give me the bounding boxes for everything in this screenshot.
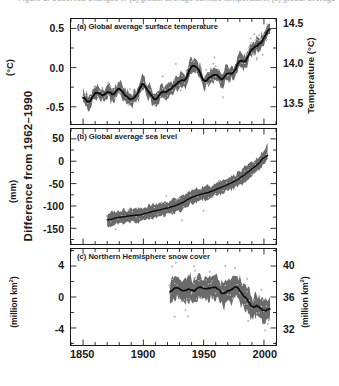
panel-c-title: (c) Northern Hemisphere snow cover xyxy=(77,252,210,261)
tick-label: 4 xyxy=(58,259,64,271)
tick-label: 14.0 xyxy=(283,57,303,69)
figure-caption-top: Figure 1. Observed changes in (a) global… xyxy=(18,0,338,4)
x-tick-label: 1950 xyxy=(192,348,216,360)
x-tick-label: 1900 xyxy=(131,348,155,360)
x-axis-tick-labels: 1850190019502000 xyxy=(70,348,277,364)
tick-label: 50 xyxy=(52,132,64,144)
tick-label: 32 xyxy=(283,323,295,335)
panel-a-left-tick-labels: 0.50.0-0.5 xyxy=(22,18,64,125)
panel-b-left-tick-labels: 500-50-100-150 xyxy=(22,128,64,245)
tick-label: 40 xyxy=(283,259,295,271)
tick-label: 0 xyxy=(58,291,64,303)
panel-c-snow-cover: (c) Northern Hemisphere snow cover xyxy=(70,248,277,346)
tick-label: 0 xyxy=(58,155,64,167)
climate-indicators-figure: Figure 1. Observed changes in (a) global… xyxy=(0,0,339,386)
x-tick-label: 2000 xyxy=(253,348,277,360)
tick-label: -50 xyxy=(49,178,64,190)
panel-b-sea-level: (b) Global average sea level xyxy=(70,128,277,245)
panel-a-title: (a) Global average surface temperature xyxy=(77,22,218,31)
tick-label: 0.0 xyxy=(49,62,64,74)
tick-label: 14.5 xyxy=(283,17,303,29)
tick-label: 36 xyxy=(283,291,295,303)
tick-label: -0.5 xyxy=(46,101,64,113)
tick-label: 0.5 xyxy=(49,22,64,34)
panel-c-right-axis-label: (million km2) xyxy=(300,276,310,328)
panel-b-title: (b) Global average sea level xyxy=(77,132,177,141)
tick-label: -150 xyxy=(43,223,64,235)
tick-label: 13.5 xyxy=(283,97,303,109)
panel-a-right-tick-labels: 14.514.013.5 xyxy=(283,18,323,125)
tick-label: -100 xyxy=(43,200,64,212)
panel-a-right-axis-label: Temperature (°C) xyxy=(305,37,316,113)
panel-c-left-tick-labels: 40-4 xyxy=(22,248,64,346)
panel-b-unit-label: (mm) xyxy=(7,180,18,203)
panel-a-unit-label: (°C) xyxy=(4,59,15,76)
panel-c-unit-label: (million km2) xyxy=(9,276,19,328)
panel-b-plot xyxy=(71,129,276,244)
x-tick-label: 1850 xyxy=(70,348,94,360)
panel-a-temperature: (a) Global average surface temperature xyxy=(70,18,277,125)
panel-c-plot xyxy=(71,249,276,345)
tick-label: -4 xyxy=(55,323,64,335)
panel-a-plot xyxy=(71,19,276,124)
